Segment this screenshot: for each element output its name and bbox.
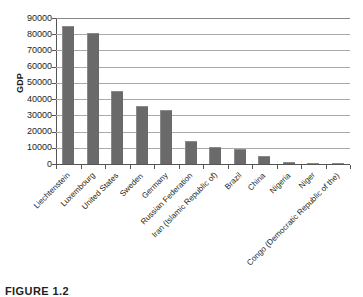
y-axis-tick-label: 20000 [12,127,52,136]
bar[interactable] [136,106,148,164]
x-axis-tick-mark [179,165,180,169]
y-axis-tick-label: 90000 [12,14,52,23]
x-axis-tick-mark [277,165,278,169]
y-axis-tick-label: 80000 [12,30,52,39]
bar[interactable] [87,33,99,164]
bar-series [56,18,350,164]
bar[interactable] [185,141,197,164]
y-axis-tick-label: 40000 [12,95,52,104]
bar[interactable] [283,162,295,164]
x-axis-tick-label: Brazil [223,171,244,192]
x-axis-tick-mark [154,165,155,169]
y-axis-tick-mark [52,83,56,84]
x-axis-tick-marks [56,165,350,169]
x-axis-tick-mark [301,165,302,169]
x-axis-tick-mark [130,165,131,169]
bar[interactable] [111,91,123,164]
x-axis-tick-label: Niger [297,171,317,191]
x-axis-tick-mark [56,165,57,169]
y-axis-tick-label: 60000 [12,62,52,71]
y-axis-tick-label: 50000 [12,78,52,87]
bar[interactable] [332,163,344,164]
plot-area [56,18,350,164]
bar[interactable] [258,156,270,164]
x-axis-tick-mark [326,165,327,169]
y-axis-tick-label: 0 [12,160,52,169]
y-axis-tick-mark [52,18,56,19]
y-axis-tick-mark [52,148,56,149]
y-axis-tick-mark [52,67,56,68]
y-axis-tick-mark [52,132,56,133]
bar[interactable] [234,149,246,164]
y-axis-tick-label: 70000 [12,46,52,55]
y-axis-tick-label: 30000 [12,111,52,120]
bar[interactable] [307,163,319,164]
bar[interactable] [160,110,172,164]
figure-caption: FIGURE 1.2 [5,285,69,297]
x-axis-tick-mark [81,165,82,169]
x-axis-tick-mark [350,165,351,169]
y-axis-tick-mark [52,115,56,116]
figure-container: GDP 010000200003000040000500006000070000… [0,0,363,297]
x-axis-tick-label: Nigeria [268,171,292,195]
y-axis-tick-mark [52,99,56,100]
bar[interactable] [62,26,74,164]
x-axis-tick-mark [105,165,106,169]
y-axis-tick-mark [52,34,56,35]
x-axis-tick-mark [203,165,204,169]
bar[interactable] [209,147,221,164]
y-axis-tick-mark [52,50,56,51]
y-axis-tick-label: 10000 [12,143,52,152]
x-axis-tick-mark [228,165,229,169]
y-axis-tick-labels: 0100002000030000400005000060000700008000… [12,18,52,164]
x-axis-tick-mark [252,165,253,169]
x-axis-tick-label: China [246,171,267,192]
